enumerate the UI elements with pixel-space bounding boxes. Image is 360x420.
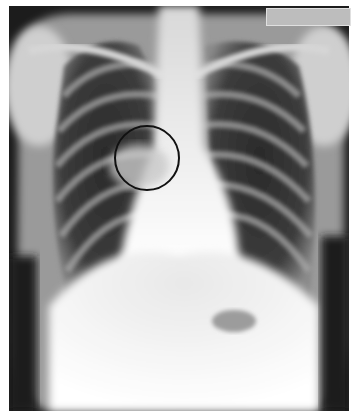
film-label-box (266, 8, 351, 26)
xray-rendering (9, 6, 349, 411)
lesion-circle-annotation (114, 125, 180, 191)
chest-xray-film (9, 6, 349, 411)
